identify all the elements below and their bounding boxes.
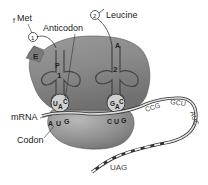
leucine-label: Leucine bbox=[106, 10, 138, 20]
small-ribosomal-subunit bbox=[48, 110, 134, 149]
p-codon-base-3: G bbox=[64, 118, 70, 125]
p-site-label: P bbox=[55, 62, 60, 69]
codon-label: Codon bbox=[17, 135, 44, 145]
a-codon-base-3: G bbox=[121, 117, 127, 124]
downstream-codon-2: GCU bbox=[170, 98, 186, 107]
trna-2-number: 2 bbox=[113, 65, 118, 74]
fmet-prefix: f bbox=[13, 17, 15, 24]
p-codon-base-2: U bbox=[56, 120, 61, 127]
a-codon-base-2: U bbox=[114, 118, 119, 125]
trna-1-number: 1 bbox=[57, 71, 62, 80]
mrna-label: mRNA bbox=[11, 112, 38, 122]
anticodon-label: Anticodon bbox=[43, 23, 83, 33]
trna-1-anticodon-base-3: C bbox=[63, 98, 68, 105]
a-codon-base-1: C bbox=[107, 118, 112, 125]
stop-codon: UAG bbox=[110, 163, 127, 172]
translation-diagram: E P A 1 2 U A C G A C A U G C U G CCG GC… bbox=[0, 0, 208, 185]
trna-2-anticodon-base-3: C bbox=[119, 98, 124, 105]
downstream-codon-3: AUC bbox=[189, 110, 200, 126]
fmet-label: Met bbox=[17, 13, 33, 23]
p-codon-base-1: A bbox=[48, 120, 53, 127]
a-site-label: A bbox=[115, 42, 120, 49]
e-site-label: E bbox=[33, 52, 39, 61]
